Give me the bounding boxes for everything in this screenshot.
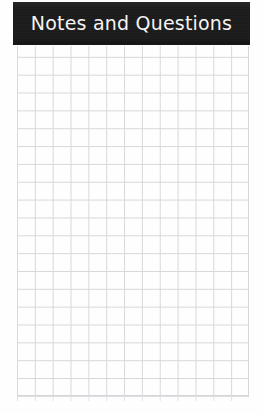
grid-right-border — [248, 46, 249, 397]
notes-page: Notes and Questions — [0, 0, 263, 413]
page-header-banner: Notes and Questions — [13, 2, 250, 45]
grid-bottom-tick-marks — [17, 396, 249, 401]
grid-paper-area[interactable] — [17, 46, 249, 397]
page-title: Notes and Questions — [31, 14, 232, 34]
grid-lines — [17, 46, 249, 397]
